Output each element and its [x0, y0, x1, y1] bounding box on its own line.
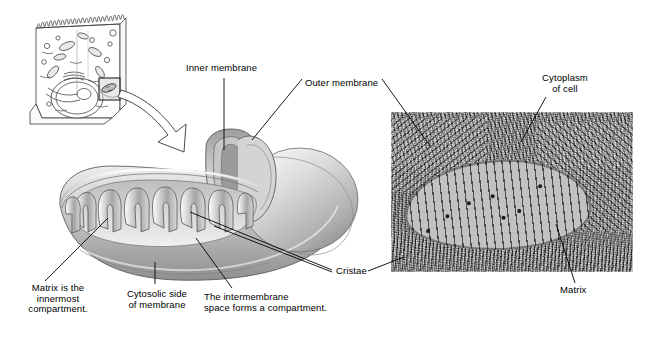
mitochondrion-figure: Inner membrane Outer membrane Cytoplasm …: [0, 0, 647, 338]
outer-membrane-surface: [60, 156, 349, 281]
leader-matrix-note: [45, 218, 108, 281]
mitochondrion-right-cap: [242, 148, 358, 252]
label-inner-membrane: Inner membrane: [186, 63, 257, 74]
label-cytosolic-side: Cytosolic side of membrane: [110, 289, 204, 310]
leader-intermembrane: [196, 238, 232, 288]
mitochondrion-drawing: [60, 129, 358, 280]
cell-diagram: [30, 15, 126, 125]
label-cytoplasm-of-cell: Cytoplasm of cell: [527, 73, 603, 94]
label-cristae: Cristae: [336, 266, 367, 277]
cut-rim-highlight: [60, 170, 260, 205]
leader-outer-membrane-left: [252, 79, 302, 140]
cut-away-membranes: [206, 129, 276, 222]
label-matrix: Matrix: [560, 285, 586, 296]
magnification-arrow: [118, 90, 186, 152]
label-matrix-note: Matrix is the innermost compartment.: [8, 283, 108, 315]
micrograph-frame: [391, 112, 633, 272]
electron-micrograph: [391, 112, 633, 272]
cristae-folds: [65, 187, 253, 233]
label-intermembrane-note: The intermembrane space forms a compartm…: [204, 292, 327, 313]
matrix-floor: [73, 180, 256, 247]
label-outer-membrane: Outer membrane: [305, 78, 378, 89]
leader-cristae-a: [190, 212, 332, 270]
leader-cristae-b: [214, 226, 332, 272]
